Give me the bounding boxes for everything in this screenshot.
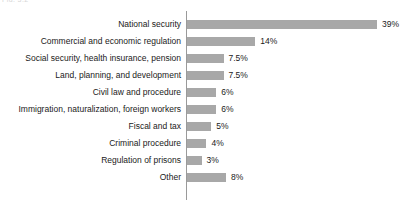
bar-value-label: 39% (382, 16, 399, 33)
bar-value-label: 6% (221, 101, 233, 118)
bar (187, 173, 226, 182)
bar-row: Criminal procedure4% (0, 135, 407, 152)
bar (187, 54, 224, 63)
plot-area: National security39%Commercial and econo… (0, 11, 407, 203)
bar-row: Immigration, naturalization, foreign wor… (0, 101, 407, 118)
bar (187, 20, 377, 29)
bar (187, 139, 206, 148)
bar-track: 14% (187, 33, 407, 50)
category-label: Fiscal and tax (0, 118, 181, 135)
bar-value-label: 3% (207, 152, 219, 169)
category-label: Land, planning, and development (0, 67, 181, 84)
category-label: Immigration, naturalization, foreign wor… (0, 101, 181, 118)
bar-value-label: 8% (231, 169, 243, 186)
bar-value-label: 14% (260, 33, 277, 50)
bar-row: Civil law and procedure6% (0, 84, 407, 101)
bar (187, 71, 224, 80)
bar-track: 7.5% (187, 50, 407, 67)
bar-chart-figure: Fig. 3.2 National security39%Commercial … (0, 0, 407, 205)
category-label: Civil law and procedure (0, 84, 181, 101)
category-label: Other (0, 169, 181, 186)
bar-row: Regulation of prisons3% (0, 152, 407, 169)
category-label: Commercial and economic regulation (0, 33, 181, 50)
bar (187, 37, 255, 46)
category-label: Social security, health insurance, pensi… (0, 50, 181, 67)
category-label: National security (0, 16, 181, 33)
bar (187, 122, 211, 131)
bar-track: 6% (187, 84, 407, 101)
bar-row: National security39% (0, 16, 407, 33)
bar-row: Commercial and economic regulation14% (0, 33, 407, 50)
category-label: Criminal procedure (0, 135, 181, 152)
bar-value-label: 4% (211, 135, 223, 152)
bar-track: 4% (187, 135, 407, 152)
bar-track: 39% (187, 16, 407, 33)
bar-row: Social security, health insurance, pensi… (0, 50, 407, 67)
category-label: Regulation of prisons (0, 152, 181, 169)
bar-value-label: 6% (221, 84, 233, 101)
bar-row: Land, planning, and development7.5% (0, 67, 407, 84)
bar-value-label: 5% (216, 118, 228, 135)
bar-value-label: 7.5% (229, 50, 248, 67)
bar-track: 7.5% (187, 67, 407, 84)
bar-track: 8% (187, 169, 407, 186)
bar (187, 156, 202, 165)
caption-fragment-text: Fig. 3.2 (2, 0, 29, 2)
bar-row: Fiscal and tax5% (0, 118, 407, 135)
bar (187, 88, 216, 97)
bar (187, 105, 216, 114)
bar-track: 6% (187, 101, 407, 118)
bar-track: 5% (187, 118, 407, 135)
bar-value-label: 7.5% (229, 67, 248, 84)
bar-row: Other8% (0, 169, 407, 186)
bar-track: 3% (187, 152, 407, 169)
